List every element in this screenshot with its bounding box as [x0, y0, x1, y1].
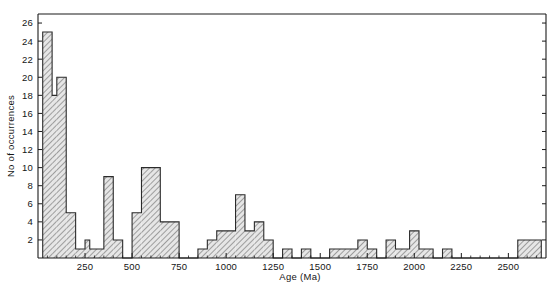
histogram-bar [236, 195, 245, 258]
x-tick-label: 250 [77, 261, 93, 272]
histogram-bar [386, 240, 395, 258]
x-tick-label: 2250 [450, 261, 472, 272]
histogram-chart: 2468101214161820222426 25050075010001250… [0, 0, 559, 294]
histogram-bar [254, 222, 263, 258]
histogram-bar [443, 249, 452, 258]
histogram-bar [367, 249, 376, 258]
x-tick-label: 2000 [403, 261, 425, 272]
histogram-bar [76, 249, 85, 258]
histogram-bar [43, 32, 52, 258]
plot-area: 2468101214161820222426 25050075010001250… [22, 14, 546, 272]
histogram-bar [151, 168, 160, 258]
y-tick-label: 10 [22, 162, 33, 173]
y-tick-label: 8 [28, 180, 33, 191]
histogram-bar [160, 222, 179, 258]
y-tick-label: 2 [28, 234, 33, 245]
histogram-bar [141, 168, 150, 258]
y-tick-label: 18 [22, 90, 33, 101]
x-tick-label: 500 [124, 261, 140, 272]
histogram-bar [104, 177, 113, 258]
histogram-bar [330, 249, 358, 258]
x-axis-title: Age (Ma) [279, 271, 320, 282]
histogram-bar [132, 213, 141, 258]
y-tick-label: 14 [22, 126, 33, 137]
histogram-bar [245, 231, 254, 258]
y-tick-label: 16 [22, 108, 33, 119]
plot-background [38, 14, 546, 258]
histogram-bar [419, 249, 433, 258]
y-tick-label: 6 [28, 198, 33, 209]
figure-container: 2468101214161820222426 25050075010001250… [0, 0, 559, 294]
histogram-bar [358, 240, 367, 258]
y-axis-title: No of occurrences [5, 95, 16, 177]
y-tick-label: 20 [22, 72, 33, 83]
y-tick-label: 26 [22, 17, 33, 28]
y-tick-label: 12 [22, 144, 33, 155]
y-tick-label: 22 [22, 54, 33, 65]
x-tick-label: 1000 [215, 261, 237, 272]
y-tick-label: 4 [28, 216, 33, 227]
histogram-bar [207, 240, 216, 258]
x-tick-label: 750 [171, 261, 187, 272]
histogram-bar [283, 249, 292, 258]
y-axis-tick-labels: 2468101214161820222426 [22, 17, 33, 245]
histogram-bar [264, 240, 273, 258]
histogram-bar [395, 249, 409, 258]
histogram-bar [113, 240, 122, 258]
y-tick-label: 24 [22, 36, 33, 47]
histogram-bar [301, 249, 310, 258]
histogram-bar [518, 240, 542, 258]
histogram-bar [90, 249, 104, 258]
histogram-bar [198, 249, 207, 258]
x-tick-label: 1750 [356, 261, 378, 272]
histogram-bar [85, 240, 90, 258]
histogram-bar [66, 213, 75, 258]
histogram-bar [57, 77, 66, 258]
histogram-bar [52, 95, 57, 258]
x-tick-label: 2500 [497, 261, 519, 272]
